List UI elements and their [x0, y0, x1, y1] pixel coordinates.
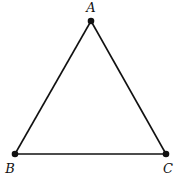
vertex-a-point — [88, 18, 95, 25]
vertex-c-point — [163, 151, 170, 158]
edge-ca — [91, 21, 166, 154]
triangle-diagram: A B C — [0, 0, 183, 177]
vertex-b-label: B — [4, 161, 15, 176]
vertex-a-label: A — [85, 0, 95, 15]
vertex-c-label: C — [163, 161, 173, 176]
vertex-b-point — [12, 151, 19, 158]
edge-ab — [15, 21, 91, 154]
